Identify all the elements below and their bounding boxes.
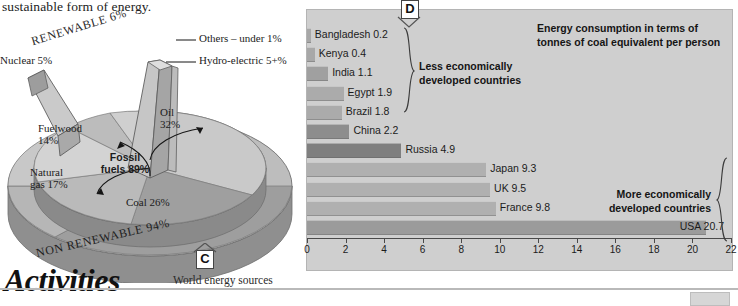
bar-row: Brazil 1.8 [307,105,732,118]
bar-usa [307,220,706,235]
pie-center-label: Fossil fuels 89% [85,152,165,176]
x-axis-tick [615,239,616,243]
bar-label-brazil: Brazil 1.8 [346,104,390,118]
x-axis-tick-label: 22 [722,244,738,255]
bar-france [307,201,496,216]
bar-bangladesh [307,28,311,43]
group-label-more-l1: More economically [616,188,711,200]
bar-row: Russia 4.9 [307,143,732,156]
pie-slice-label-oil: Oil 32% [160,106,180,131]
bracket-less-developed [402,26,416,116]
x-axis-tick [731,239,732,243]
x-axis-tick-label: 14 [568,244,586,255]
bar-kenya [307,47,315,62]
bar-egypt [307,86,344,101]
bar-row: USA 20.7 [307,220,732,233]
bar-label-bangladesh: Bangladesh 0.2 [315,27,388,41]
bar-label-uk: UK 9.5 [494,181,526,195]
x-axis-tick [500,239,501,243]
bar-label-kenya: Kenya 0.4 [319,46,366,60]
x-axis-tick-label: 20 [683,244,701,255]
pie-slice-label-natural-gas: Natural gas 17% [30,166,68,191]
pie-callout-hydro: Hydro-electric 5+% [199,54,287,66]
x-axis-tick [577,239,578,243]
bracket-more-developed [715,156,729,244]
x-axis-tick [423,239,424,243]
bar-chart-title: Energy consumption in terms of tonnes of… [537,22,732,50]
x-axis-line [307,238,732,239]
group-label-less-developed: Less economically developed countries [419,60,521,87]
x-axis-tick-label: 10 [491,244,509,255]
figure-c-pointer [190,243,220,253]
x-axis-tick-label: 8 [452,244,470,255]
footer-page-box [690,292,730,306]
x-axis-tick [692,239,693,243]
bar-label-france: France 9.8 [500,200,550,214]
pie-slice-label-oil-l2: 32% [160,118,180,130]
bar-uk [307,182,490,197]
pie-slice-label-nuclear: Nuclear 5% [0,54,52,66]
pie-center-label-l2: fuels 89% [101,163,149,175]
x-axis-tick [346,239,347,243]
figure-caption-c: World energy sources [173,274,273,286]
pie-slice-label-fuelwood-l2: 14% [38,134,58,146]
bar-label-russia: Russia 4.9 [405,142,455,156]
x-axis-tick-label: 18 [645,244,663,255]
pie-slice-label-oil-l1: Oil [160,106,174,118]
activities-heading: Activities [4,262,120,299]
group-label-more-l2: developed countries [609,202,711,214]
group-label-less-l1: Less economically [419,60,512,72]
pie-slice-label-fuelwood: Fuelwood 14% [38,122,82,147]
bar-row: China 2.2 [307,124,732,137]
bar-chart-title-l2: of coal equivalent per person [574,36,720,48]
group-label-less-l2: developed countries [419,74,521,86]
bar-brazil [307,105,342,120]
bar-row: Japan 9.3 [307,162,732,175]
bar-japan [307,162,486,177]
bar-label-japan: Japan 9.3 [490,161,536,175]
x-axis-tick [384,239,385,243]
x-axis-tick-label: 16 [606,244,624,255]
bar-label-india: India 1.1 [332,65,372,79]
bar-india [307,66,328,81]
bar-label-egypt: Egypt 1.9 [348,85,392,99]
x-axis-tick-label: 4 [375,244,393,255]
x-axis-tick [461,239,462,243]
x-axis-tick [654,239,655,243]
bar-label-china: China 2.2 [353,123,398,137]
footer-divider [0,288,738,290]
bar-china [307,124,349,139]
group-label-more-developed: More economically developed countries [593,188,711,215]
bar-russia [307,143,401,158]
x-axis-tick-label: 2 [337,244,355,255]
x-axis-tick-label: 12 [529,244,547,255]
x-axis-tick-label: 0 [298,244,316,255]
pie-slice-label-fuelwood-l1: Fuelwood [38,122,82,134]
body-paragraph: sustainable form of energy. [2,0,151,15]
bar-chart-panel: Bangladesh 0.2Kenya 0.4India 1.1Egypt 1.… [306,9,733,271]
pie-center-label-l1: Fossil [110,151,140,163]
x-axis-tick [307,239,308,243]
pie-slice-label-gas-l2: gas 17% [30,178,68,190]
pie-callout-others: Others – under 1% [199,32,282,44]
pie-chart-figure: RENEWABLE 6% NON RENEWABLE 94% Others – … [0,18,300,283]
figure-d-pointer [395,16,425,28]
bar-row: Egypt 1.9 [307,86,732,99]
pie-slice-label-coal: Coal 26% [126,196,170,208]
x-axis-tick [538,239,539,243]
pie-slice-label-gas-l1: Natural [30,166,63,178]
x-axis-tick-label: 6 [414,244,432,255]
